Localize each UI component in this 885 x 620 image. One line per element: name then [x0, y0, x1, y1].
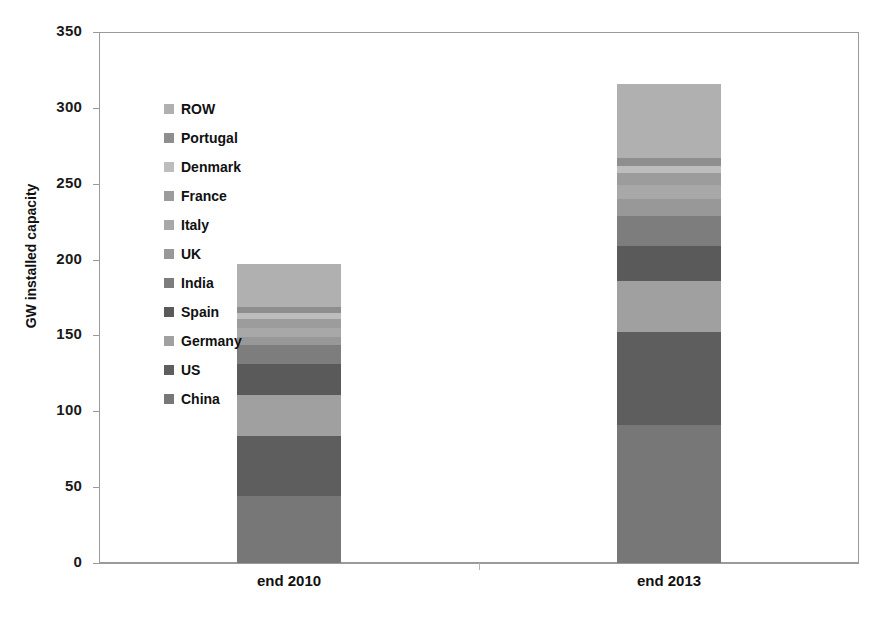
y-tick-label: 50 — [30, 477, 82, 494]
bar-segment-china[interactable] — [237, 496, 341, 563]
y-tick-label: 300 — [30, 98, 82, 115]
chart-legend: ROWPortugalDenmarkFranceItalyUKIndiaSpai… — [164, 94, 242, 413]
bar-segment-italy[interactable] — [617, 185, 721, 199]
legend-item-us[interactable]: US — [164, 355, 242, 384]
legend-label: Germany — [181, 334, 242, 348]
bar-segment-uk[interactable] — [237, 337, 341, 345]
bar-group-2[interactable] — [617, 32, 721, 563]
bar-segment-portugal[interactable] — [237, 307, 341, 313]
legend-label: China — [181, 392, 220, 406]
bar-segment-row[interactable] — [237, 264, 341, 306]
y-axis-line — [99, 32, 100, 564]
bar-segment-uk[interactable] — [617, 199, 721, 216]
bar-segment-portugal[interactable] — [617, 158, 721, 166]
y-tick-mark — [93, 184, 99, 185]
bar-segment-spain[interactable] — [617, 246, 721, 281]
legend-swatch-icon — [164, 278, 174, 288]
bar-segment-france[interactable] — [237, 319, 341, 328]
x-tick-mark — [479, 563, 480, 570]
legend-label: ROW — [181, 102, 215, 116]
y-axis-title: GW installed capacity — [23, 161, 39, 351]
bar-segment-india[interactable] — [237, 345, 341, 365]
legend-swatch-icon — [164, 220, 174, 230]
x-category-label-1: end 2010 — [209, 572, 369, 589]
y-tick-mark — [93, 335, 99, 336]
legend-label: Denmark — [181, 160, 241, 174]
legend-item-uk[interactable]: UK — [164, 239, 242, 268]
legend-label: India — [181, 276, 214, 290]
bar-segment-row[interactable] — [617, 84, 721, 158]
legend-label: Italy — [181, 218, 209, 232]
bar-group-1[interactable] — [237, 32, 341, 563]
y-tick-label: 350 — [30, 22, 82, 39]
y-tick-mark — [93, 487, 99, 488]
legend-item-france[interactable]: France — [164, 181, 242, 210]
y-tick-mark — [93, 32, 99, 33]
y-tick-mark — [93, 411, 99, 412]
legend-item-china[interactable]: China — [164, 384, 242, 413]
legend-swatch-icon — [164, 249, 174, 259]
y-tick-mark — [93, 108, 99, 109]
legend-item-spain[interactable]: Spain — [164, 297, 242, 326]
legend-label: UK — [181, 247, 201, 261]
legend-label: Spain — [181, 305, 219, 319]
x-category-label-2: end 2013 — [589, 572, 749, 589]
bar-segment-india[interactable] — [617, 216, 721, 246]
bar-segment-denmark[interactable] — [237, 313, 341, 319]
legend-swatch-icon — [164, 104, 174, 114]
y-tick-label: 0 — [30, 553, 82, 570]
bar-segment-france[interactable] — [617, 173, 721, 185]
chart-container: 050100150200250300350 GW installed capac… — [0, 0, 885, 620]
legend-item-row[interactable]: ROW — [164, 94, 242, 123]
legend-swatch-icon — [164, 365, 174, 375]
legend-swatch-icon — [164, 336, 174, 346]
y-tick-label: 100 — [30, 401, 82, 418]
bar-segment-us[interactable] — [237, 436, 341, 497]
legend-item-germany[interactable]: Germany — [164, 326, 242, 355]
legend-swatch-icon — [164, 162, 174, 172]
y-tick-mark — [93, 260, 99, 261]
legend-swatch-icon — [164, 307, 174, 317]
legend-item-italy[interactable]: Italy — [164, 210, 242, 239]
legend-item-denmark[interactable]: Denmark — [164, 152, 242, 181]
legend-swatch-icon — [164, 133, 174, 143]
bar-segment-germany[interactable] — [237, 395, 341, 436]
legend-label: US — [181, 363, 200, 377]
legend-swatch-icon — [164, 394, 174, 404]
bar-segment-denmark[interactable] — [617, 166, 721, 174]
bar-segment-china[interactable] — [617, 425, 721, 563]
legend-label: Portugal — [181, 131, 238, 145]
bar-segment-italy[interactable] — [237, 328, 341, 337]
bar-segment-germany[interactable] — [617, 281, 721, 333]
legend-label: France — [181, 189, 227, 203]
bar-segment-us[interactable] — [617, 332, 721, 425]
legend-swatch-icon — [164, 191, 174, 201]
legend-item-india[interactable]: India — [164, 268, 242, 297]
bar-segment-spain[interactable] — [237, 364, 341, 394]
legend-item-portugal[interactable]: Portugal — [164, 123, 242, 152]
